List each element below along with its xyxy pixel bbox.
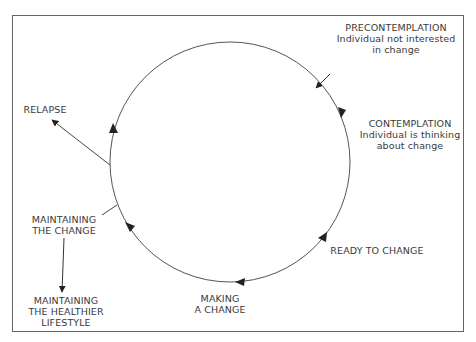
label-making-a-change: MAKING A CHANGE	[180, 293, 260, 315]
label-precontemplation: PRECONTEMPLATION Individual not interest…	[326, 22, 466, 55]
cycle-direction-arrows	[109, 107, 346, 286]
cycle-circle	[110, 42, 350, 282]
label-ready-to-change: READY TO CHANGE	[322, 245, 432, 256]
arrowhead-icon	[125, 222, 135, 232]
label-healthier-lifestyle: MAINTAINING THE HEALTHIER LIFESTYLE	[18, 295, 114, 328]
relapse-arrow	[52, 120, 110, 165]
label-relapse: RELAPSE	[20, 104, 70, 115]
arrowhead-icon	[109, 123, 118, 133]
label-maintaining-the-change: MAINTAINING THE CHANGE	[18, 214, 110, 236]
outcome-arrow	[62, 238, 64, 292]
arrowhead-icon	[235, 278, 245, 286]
label-contemplation: CONTEMPLATION Individual is thinking abo…	[350, 118, 470, 151]
arrowhead-icon	[318, 232, 327, 242]
